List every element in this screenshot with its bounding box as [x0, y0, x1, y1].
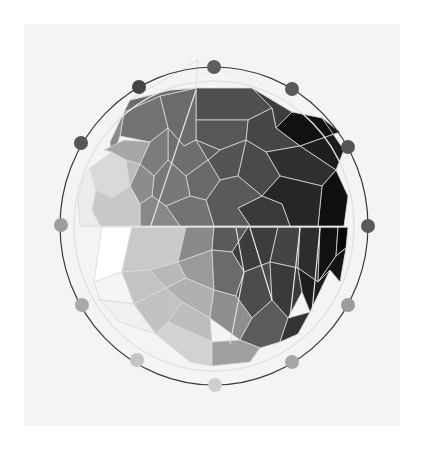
dot-10	[74, 136, 88, 150]
dot-08	[75, 298, 89, 312]
dot-02	[341, 140, 355, 154]
dot-04	[341, 298, 355, 312]
dot-01	[285, 82, 299, 96]
dot-11	[132, 80, 146, 94]
dot-09	[54, 218, 68, 232]
dot-05	[285, 355, 299, 369]
dot-00	[207, 60, 221, 74]
dot-03	[361, 219, 375, 233]
artwork-canvas	[0, 0, 422, 452]
dot-06	[208, 378, 222, 392]
dot-07	[130, 353, 144, 367]
